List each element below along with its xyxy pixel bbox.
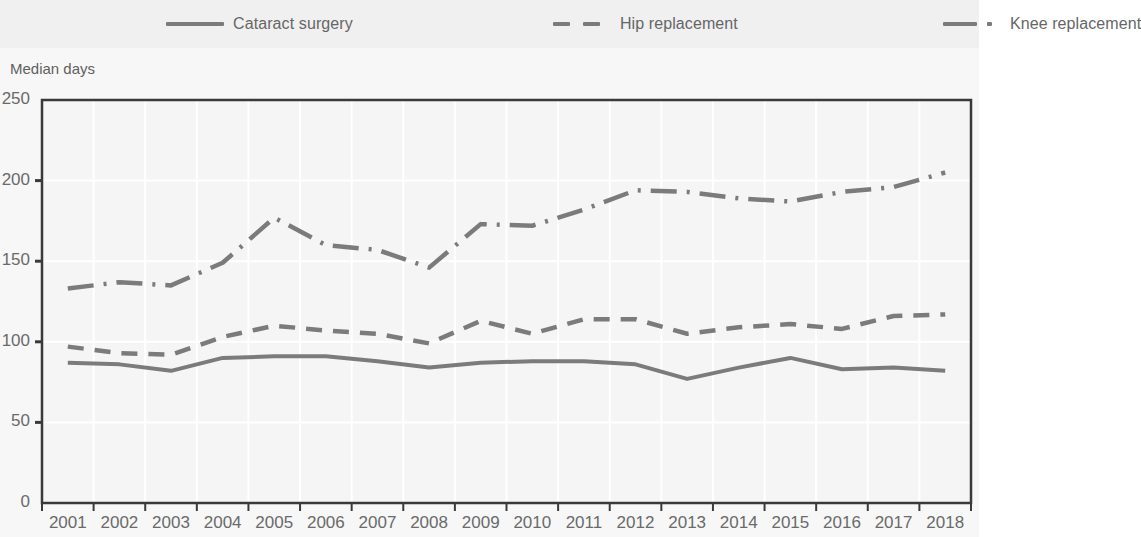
x-axis-tick-label: 2006 xyxy=(300,513,352,533)
x-axis-tick-label: 2001 xyxy=(42,513,94,533)
x-axis-tick-label: 2015 xyxy=(765,513,817,533)
x-axis-tick-label: 2016 xyxy=(816,513,868,533)
y-axis-tick-label: 150 xyxy=(0,250,30,270)
x-axis-tick-label: 2003 xyxy=(145,513,197,533)
x-axis-tick-label: 2017 xyxy=(868,513,920,533)
x-axis-tick-label: 2014 xyxy=(713,513,765,533)
x-axis-tick-label: 2005 xyxy=(248,513,300,533)
x-axis-tick-label: 2010 xyxy=(507,513,559,533)
x-axis-tick-label: 2008 xyxy=(403,513,455,533)
y-axis-tick-label: 200 xyxy=(0,170,30,190)
x-axis-tick-label: 2013 xyxy=(661,513,713,533)
y-axis-tick-label: 100 xyxy=(0,331,30,351)
x-axis-tick-label: 2018 xyxy=(919,513,971,533)
legend-label-knee-replacement: Knee replacement xyxy=(1010,15,1141,33)
x-axis-tick-label: 2002 xyxy=(94,513,146,533)
x-axis-tick-label: 2012 xyxy=(610,513,662,533)
y-axis-tick-label: 50 xyxy=(0,411,30,431)
x-axis-tick-label: 2011 xyxy=(558,513,610,533)
x-axis-tick-label: 2004 xyxy=(197,513,249,533)
x-axis-tick-label: 2009 xyxy=(455,513,507,533)
y-axis-tick-label: 250 xyxy=(0,89,30,109)
y-axis-tick-label: 0 xyxy=(0,492,30,512)
x-axis-tick-label: 2007 xyxy=(352,513,404,533)
